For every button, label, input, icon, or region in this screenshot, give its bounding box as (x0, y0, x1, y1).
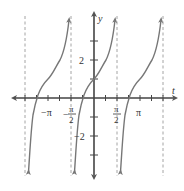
curve-branch-1 (29, 20, 70, 172)
y-tick-label-2: 2 (79, 55, 84, 66)
curve-branch-2 (75, 20, 116, 172)
y-axis-label: y (97, 13, 103, 24)
y-tick-label-neg-2: −2 (74, 131, 85, 142)
x-tick-label-neg-pi: −π (41, 107, 52, 118)
x-tick-label-pi: π (136, 107, 141, 118)
svg-text:π: π (69, 104, 74, 114)
tangent-graph: y t 2 −2 −π π − π 2 π 2 (0, 0, 184, 191)
x-tick-label-pi-over-2: π 2 (113, 104, 121, 125)
t-axis-label: t (172, 85, 175, 96)
curve-branch-3 (121, 20, 162, 172)
svg-text:2: 2 (114, 115, 119, 125)
x-tick-label-neg-pi-over-2: − π 2 (63, 104, 76, 125)
svg-text:π: π (114, 104, 119, 114)
svg-text:2: 2 (69, 115, 74, 125)
